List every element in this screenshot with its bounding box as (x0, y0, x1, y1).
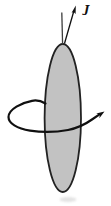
ground-shadow (60, 197, 77, 202)
figure-canvas: J (0, 0, 111, 206)
spin-axis-line (62, 13, 63, 45)
angular-momentum-arrow-shaft (65, 11, 75, 44)
angular-momentum-label: J (82, 3, 90, 16)
spinning-body-diagram: J (0, 0, 111, 206)
spheroid-body (45, 44, 81, 192)
